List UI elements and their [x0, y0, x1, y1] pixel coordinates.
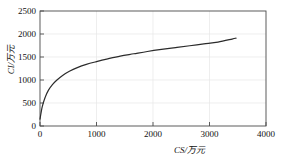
y-axis-title: CI/万元 — [4, 31, 17, 89]
x-axis-title: CS/万元 — [174, 143, 205, 156]
y-tick-label-0: 0 — [8, 121, 36, 131]
x-tick-label-2000: 2000 — [144, 129, 162, 139]
plot-canvas — [0, 0, 286, 160]
data-series-line — [40, 38, 236, 119]
x-tick-label-0: 0 — [38, 129, 43, 139]
x-tick-label-1000: 1000 — [88, 129, 106, 139]
y-tick-label-500: 500 — [8, 98, 36, 108]
x-axis-ticks — [40, 122, 266, 126]
chart-figure: 0 500 1000 1500 2000 2500 0 1000 2000 30… — [0, 0, 286, 160]
x-tick-label-3000: 3000 — [201, 129, 219, 139]
y-tick-label-2500: 2500 — [8, 6, 36, 16]
x-tick-label-4000: 4000 — [257, 129, 275, 139]
